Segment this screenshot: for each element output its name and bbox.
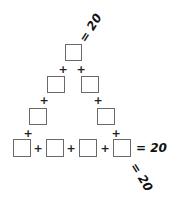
answer-box-bottom-4[interactable]: [113, 139, 131, 157]
plus-sign: +: [111, 128, 120, 139]
answer-box-row2-right[interactable]: [81, 76, 99, 93]
plus-sign: +: [39, 95, 48, 106]
plus-sign: +: [58, 64, 67, 75]
plus-sign: +: [23, 128, 32, 139]
plus-sign: +: [100, 143, 109, 154]
answer-box-bottom-3[interactable]: [79, 139, 97, 157]
plus-sign: +: [76, 64, 85, 75]
answer-box-top[interactable]: [65, 44, 82, 61]
answer-box-row2-left[interactable]: [47, 76, 65, 93]
plus-sign: +: [93, 95, 102, 106]
answer-box-row3-right[interactable]: [97, 108, 115, 125]
plus-sign: +: [66, 143, 75, 154]
plus-sign: +: [33, 143, 42, 154]
right-side-sum-label: = 20: [128, 161, 155, 194]
answer-box-bottom-2[interactable]: [46, 139, 64, 157]
answer-box-bottom-1[interactable]: [13, 139, 31, 157]
bottom-row-sum-label: = 20: [136, 142, 167, 154]
answer-box-row3-left[interactable]: [29, 108, 47, 125]
left-side-sum-label: = 20: [77, 12, 104, 45]
